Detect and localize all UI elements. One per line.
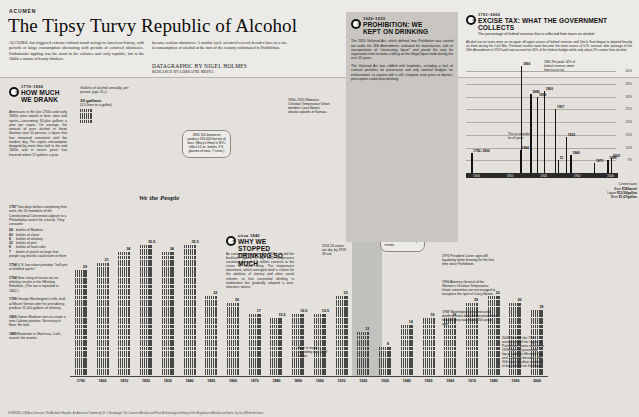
chart-value-label: 22 (213, 291, 217, 295)
x-axis-tick: 1790 (77, 379, 85, 383)
glass-glyph (466, 365, 478, 368)
glass-glyph (314, 369, 326, 372)
glass-glyph (531, 329, 543, 332)
glass-glyph (531, 310, 543, 313)
chart-value-label: 22 (344, 291, 348, 295)
glass-glyph (140, 372, 152, 375)
glass-glyph (357, 340, 369, 343)
glass-glyph (97, 278, 109, 281)
panel-title-line1: PROHIBITION: WE (363, 21, 422, 28)
x-axis-tick: 1850 (207, 379, 215, 383)
glass-glyph (162, 340, 174, 343)
panel-prohibition: 1920–1933 PROHIBITION: WE KEPT ON DRINKI… (346, 12, 458, 242)
chart-column (422, 318, 435, 376)
glass-glyph (423, 343, 435, 346)
glass-glyph (75, 289, 87, 292)
glass-glyph (270, 340, 282, 343)
glass-glyph (531, 318, 543, 321)
glass-glyph (336, 332, 348, 335)
timeline-text: Two days before completing their work, t… (9, 205, 67, 226)
glass-glyph (444, 329, 456, 332)
glass-glyph (249, 336, 261, 339)
glass-glyph (357, 347, 369, 350)
glass-glyph (140, 245, 152, 248)
glass-glyph (162, 252, 174, 255)
x-axis-tick: 1950 (425, 379, 433, 383)
glass-glyph (162, 343, 174, 346)
convention-drink-list: 54bottles of Madeira 60bottles of claret… (9, 228, 69, 258)
glass-glyph (531, 372, 543, 375)
glass-glyph (118, 270, 130, 273)
glass-glyph (444, 372, 456, 375)
glass-glyph (184, 270, 196, 273)
glass-glyph (270, 358, 282, 361)
glass-glyph (466, 303, 478, 306)
glass-glyph (357, 343, 369, 346)
glass-glyph (401, 340, 413, 343)
excise-tax-chart: 18001850190019502000 This act provides f… (466, 58, 632, 178)
glass-glyph (336, 321, 348, 324)
glass-glyph (97, 303, 109, 306)
chart-column (270, 318, 283, 376)
glass-glyph (184, 256, 196, 259)
glass-glyph (97, 274, 109, 277)
glass-glyph (509, 318, 521, 321)
glass-glyph (401, 365, 413, 368)
glass-glyph (97, 336, 109, 339)
glass-glyph (184, 303, 196, 306)
glass-glyph (118, 321, 130, 324)
glass-glyph (488, 332, 500, 335)
glass-glyph (336, 351, 348, 354)
glass-glyph (140, 361, 152, 364)
glass-glyph (466, 358, 478, 361)
timeline-item: 1794 New ruling of excise tax on whiskey… (9, 276, 69, 293)
chart-value-label: 16.5 (300, 309, 307, 313)
glass-glyph (444, 343, 456, 346)
glass-glyph (401, 343, 413, 346)
glass-glyph (466, 336, 478, 339)
chart-column (118, 252, 131, 376)
glass-glyph (184, 325, 196, 328)
panel-excise-header: 1791–2000 EXCISE TAX: WHAT THE GOVERNMEN… (466, 12, 632, 37)
glass-glyph (423, 340, 435, 343)
glass-glyph (270, 347, 282, 350)
glass-glyph (75, 372, 87, 375)
annotation-1984: 1984 Attorney General of the Woman's Chr… (442, 280, 498, 296)
glass-glyph (140, 321, 152, 324)
glass-glyph (423, 332, 435, 335)
glass-glyph (292, 321, 304, 324)
glass-glyph (379, 347, 391, 350)
glass-glyph (509, 307, 521, 310)
chart-column (140, 245, 153, 376)
glass-glyph (184, 274, 196, 277)
glass-glyph (249, 325, 261, 328)
glass-glyph (227, 318, 239, 321)
glass-glyph (184, 245, 196, 248)
glass-glyph (401, 354, 413, 357)
glass-glyph (270, 343, 282, 346)
glass-glyph (249, 343, 261, 346)
glass-glyph (270, 336, 282, 339)
panel-title-line1: HOW MUCH (21, 89, 60, 96)
glass-glyph (75, 361, 87, 364)
x-axis-tick: 1830 (164, 379, 172, 383)
glass-glyph (184, 292, 196, 295)
glass-glyph (75, 274, 87, 277)
glass-glyph (97, 289, 109, 292)
glass-glyph (466, 351, 478, 354)
glass-glyph (227, 354, 239, 357)
glass-glyph (292, 332, 304, 335)
glass-glyph (227, 361, 239, 364)
glass-glyph (336, 369, 348, 372)
x-axis-tick: 1930 (381, 379, 389, 383)
how-much-paragraph: Americans in the late 1700s and early 18… (9, 110, 67, 157)
chart-value-label: 34 (170, 247, 174, 251)
glass-glyph (140, 318, 152, 321)
glass-glyph (227, 369, 239, 372)
glass-glyph (509, 372, 521, 375)
glass-glyph (140, 274, 152, 277)
glass-glyph (184, 310, 196, 313)
chart-value-label: 14 (409, 320, 413, 324)
glass-glyph (118, 318, 130, 321)
glass-glyph (140, 336, 152, 339)
